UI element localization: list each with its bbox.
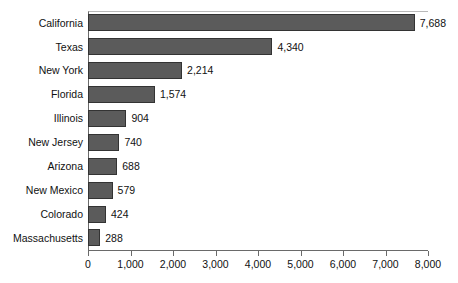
x-tick-label: 6,000 — [330, 259, 356, 270]
bar — [88, 206, 106, 223]
value-label: 4,340 — [277, 42, 303, 53]
x-tick — [173, 251, 174, 256]
bar — [88, 229, 100, 246]
value-label: 1,574 — [160, 89, 186, 100]
bar-row: Illinois904 — [88, 107, 428, 131]
x-tick — [428, 251, 429, 256]
x-tick-label: 7,000 — [372, 259, 398, 270]
category-label: California — [39, 18, 83, 29]
category-label: Texas — [56, 42, 83, 53]
x-tick — [301, 251, 302, 256]
category-label: Massachusetts — [13, 233, 83, 244]
bar-row: Florida1,574 — [88, 83, 428, 107]
x-tick-label: 2,000 — [160, 259, 186, 270]
bar — [88, 158, 117, 175]
value-label: 7,688 — [420, 18, 446, 29]
bar-row: Texas4,340 — [88, 35, 428, 59]
x-tick-label: 5,000 — [287, 259, 313, 270]
bar-row: New Jersey740 — [88, 130, 428, 154]
x-tick-label: 8,000 — [415, 259, 441, 270]
bar — [88, 62, 182, 79]
category-label: Colorado — [40, 209, 83, 220]
bar — [88, 86, 155, 103]
x-tick — [258, 251, 259, 256]
value-label: 904 — [131, 113, 149, 124]
x-tick-label: 4,000 — [245, 259, 271, 270]
category-label: New York — [39, 65, 83, 76]
bar — [88, 38, 272, 55]
category-label: Arizona — [47, 161, 83, 172]
bar — [88, 182, 113, 199]
category-label: New Mexico — [26, 185, 83, 196]
x-tick — [131, 251, 132, 256]
x-tick-label: 0 — [85, 259, 91, 270]
x-tick — [386, 251, 387, 256]
value-label: 740 — [124, 137, 142, 148]
value-label: 288 — [105, 233, 123, 244]
value-label: 579 — [118, 185, 136, 196]
x-axis: 01,0002,0003,0004,0005,0006,0007,0008,00… — [88, 251, 428, 281]
bar — [88, 14, 415, 31]
x-tick — [216, 251, 217, 256]
bar-row: New Mexico579 — [88, 178, 428, 202]
value-label: 2,214 — [187, 65, 213, 76]
bar-row: Colorado424 — [88, 202, 428, 226]
bar-row: Massachusetts288 — [88, 226, 428, 250]
bar-row: California7,688 — [88, 11, 428, 35]
bar — [88, 110, 126, 127]
category-label: Illinois — [54, 113, 83, 124]
x-tick — [88, 251, 89, 256]
category-label: Florida — [51, 89, 83, 100]
x-tick — [343, 251, 344, 256]
x-tick-label: 3,000 — [202, 259, 228, 270]
x-tick-label: 1,000 — [117, 259, 143, 270]
bar-row: Arizona688 — [88, 154, 428, 178]
category-label: New Jersey — [28, 137, 83, 148]
value-label: 688 — [122, 161, 140, 172]
bar — [88, 134, 119, 151]
bar-row: New York2,214 — [88, 59, 428, 83]
bar-chart: California7,688Texas4,340New York2,214Fl… — [0, 0, 458, 283]
bar-rows: California7,688Texas4,340New York2,214Fl… — [88, 11, 428, 250]
value-label: 424 — [111, 209, 129, 220]
